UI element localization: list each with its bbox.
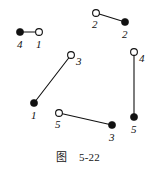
vertex-label: 1 — [36, 39, 42, 50]
graph-node-filled — [108, 121, 115, 128]
graph-edge — [34, 55, 71, 103]
vertex-label: 4 — [139, 53, 145, 64]
vertex-label: 5 — [55, 119, 61, 130]
vertex-label: 5 — [131, 124, 137, 135]
vertex-label: 1 — [31, 110, 37, 121]
graph-node-open — [56, 110, 63, 117]
figure-caption: 图 5-22 — [0, 148, 156, 164]
graph-node-filled — [16, 28, 23, 35]
vertex-label: 3 — [109, 132, 115, 143]
vertex-label: 2 — [92, 19, 98, 30]
graph-node-open — [131, 49, 138, 56]
figure-container: 4122315345 图 5-22 — [0, 0, 156, 171]
graph-node-open — [93, 10, 100, 17]
vertex-label: 4 — [17, 39, 23, 50]
graph-node-open — [68, 52, 75, 59]
graph-edge — [96, 13, 125, 22]
graph-node-open — [36, 29, 43, 36]
vertex-label: 2 — [122, 29, 128, 40]
graph-node-filled — [30, 99, 37, 106]
graph-edge — [59, 113, 112, 125]
graph-node-filled — [130, 113, 137, 120]
graph-canvas — [0, 0, 156, 171]
vertex-label: 3 — [76, 56, 82, 67]
graph-node-filled — [121, 18, 128, 25]
